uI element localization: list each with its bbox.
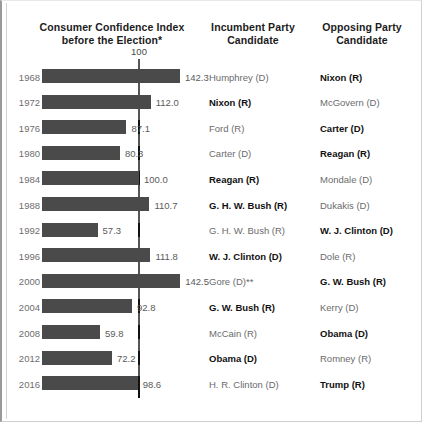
chart-row: 1984100.0Reagan (R)Mondale (D) [2, 171, 422, 193]
incumbent-candidate-label: Obama (D) [209, 353, 257, 364]
confidence-index-bar [42, 274, 180, 288]
opposing-candidate-label: Kerry (D) [320, 302, 359, 313]
opposing-candidate-label: G. W. Bush (R) [320, 276, 386, 287]
bar-value-label: 92.8 [137, 302, 156, 313]
confidence-index-bar [42, 146, 120, 160]
bar-value-label: 110.7 [154, 200, 177, 211]
bar-value-label: 87.1 [131, 123, 150, 134]
incumbent-candidate-label: G. H. W. Bush (R) [209, 200, 287, 211]
opposing-candidate-label: McGovern (D) [320, 97, 380, 108]
opposing-candidate-label: Nixon (R) [320, 72, 362, 83]
confidence-index-bar [42, 351, 112, 365]
incumbent-candidate-label: G. W. Bush (R) [209, 302, 275, 313]
row-year-label: 1996 [14, 251, 40, 262]
chart-frame: Consumer Confidence Index before the Ele… [0, 0, 422, 422]
chart-row: 1972112.0Nixon (R)McGovern (D) [2, 95, 422, 117]
confidence-index-bar [42, 325, 100, 339]
row-year-label: 2016 [14, 379, 40, 390]
bar-value-label: 112.0 [156, 97, 179, 108]
bar-value-label: 142.5 [185, 276, 209, 287]
chart-row: 200859.8McCain (R)Obama (D) [2, 325, 422, 347]
chart-row: 201698.6H. R. Clinton (D)Trump (R) [2, 376, 422, 398]
bar-value-label: 72.2 [117, 353, 136, 364]
incumbent-candidate-label: H. R. Clinton (D) [209, 379, 279, 390]
opposing-candidate-label: Romney (R) [320, 353, 371, 364]
row-year-label: 2008 [14, 328, 40, 339]
bar-value-label: 98.6 [143, 379, 162, 390]
incumbent-candidate-label: Reagan (R) [209, 174, 259, 185]
chart-row: 1996111.8W. J. Clinton (D)Dole (R) [2, 248, 422, 270]
chart-row: 200492.8G. W. Bush (R)Kerry (D) [2, 299, 422, 321]
chart-row: 199257.3G. H. W. Bush (R)W. J. Clinton (… [2, 223, 422, 245]
confidence-index-bar [42, 197, 149, 211]
confidence-index-bar [42, 120, 126, 134]
opposing-candidate-label: Carter (D) [320, 123, 364, 134]
chart-plot-area: 1968142.3Humphrey (D)Nixon (R)1972112.0N… [2, 1, 422, 422]
chart-row: 1988110.7G. H. W. Bush (R)Dukakis (D) [2, 197, 422, 219]
confidence-index-bar [42, 171, 139, 185]
row-year-label: 1976 [14, 123, 40, 134]
confidence-index-bar [42, 95, 151, 109]
confidence-index-bar [42, 69, 180, 83]
row-year-label: 1980 [14, 148, 40, 159]
row-year-label: 2004 [14, 302, 40, 313]
incumbent-candidate-label: G. H. W. Bush (R) [209, 225, 285, 236]
row-year-label: 1992 [14, 225, 40, 236]
bar-value-label: 57.3 [103, 225, 122, 236]
row-year-label: 1984 [14, 174, 40, 185]
opposing-candidate-label: Reagan (R) [320, 148, 370, 159]
incumbent-candidate-label: Carter (D) [209, 148, 251, 159]
chart-row: 198080.3Carter (D)Reagan (R) [2, 146, 422, 168]
opposing-candidate-label: Obama (D) [320, 328, 368, 339]
bar-value-label: 142.3 [185, 72, 209, 83]
row-year-label: 2012 [14, 353, 40, 364]
confidence-index-bar [42, 299, 132, 313]
incumbent-candidate-label: McCain (R) [209, 328, 257, 339]
chart-row: 2000142.5Gore (D)**G. W. Bush (R) [2, 274, 422, 296]
chart-row: 201272.2Obama (D)Romney (R) [2, 351, 422, 373]
bar-value-label: 80.3 [125, 148, 144, 159]
chart-row: 1968142.3Humphrey (D)Nixon (R) [2, 69, 422, 91]
row-year-label: 1988 [14, 200, 40, 211]
opposing-candidate-label: Dole (R) [320, 251, 355, 262]
incumbent-candidate-label: Gore (D)** [209, 276, 253, 287]
incumbent-candidate-label: Humphrey (D) [209, 72, 269, 83]
opposing-candidate-label: Dukakis (D) [320, 200, 370, 211]
bar-value-label: 100.0 [144, 174, 168, 185]
confidence-index-bar [42, 223, 98, 237]
incumbent-candidate-label: Ford (R) [209, 123, 244, 134]
confidence-index-bar [42, 248, 150, 262]
opposing-candidate-label: W. J. Clinton (D) [320, 225, 393, 236]
chart-row: 197687.1Ford (R)Carter (D) [2, 120, 422, 142]
row-year-label: 1972 [14, 97, 40, 108]
incumbent-candidate-label: W. J. Clinton (D) [209, 251, 282, 262]
incumbent-candidate-label: Nixon (R) [209, 97, 251, 108]
opposing-candidate-label: Trump (R) [320, 379, 365, 390]
reference-line-tick [138, 59, 139, 69]
bar-value-label: 111.8 [155, 251, 177, 262]
row-year-label: 2000 [14, 276, 40, 287]
confidence-index-bar [42, 376, 138, 390]
row-year-label: 1968 [14, 72, 40, 83]
opposing-candidate-label: Mondale (D) [320, 174, 372, 185]
bar-value-label: 59.8 [105, 328, 124, 339]
